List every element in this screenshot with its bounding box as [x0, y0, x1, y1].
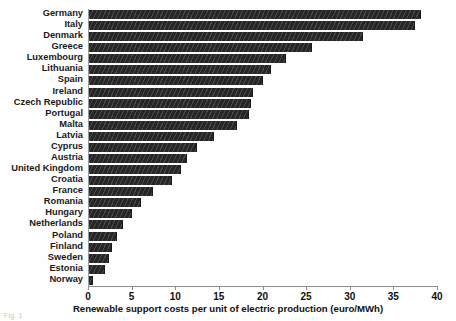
bar-row: Finland: [88, 242, 437, 253]
bar-row: Spain: [88, 75, 437, 86]
x-tick-mark: [175, 286, 176, 290]
bar-row: Sweden: [88, 253, 437, 264]
category-label: Ireland: [53, 86, 83, 97]
x-tick-label: 30: [344, 291, 355, 302]
bar-row: Netherlands: [88, 219, 437, 230]
bar-row: Latvia: [88, 131, 437, 142]
bar-row: Denmark: [88, 31, 437, 42]
bar: [88, 32, 363, 41]
x-tick-mark: [219, 286, 220, 290]
category-label: Romania: [44, 196, 83, 207]
x-tick-label: 25: [301, 291, 312, 302]
category-label: Croatia: [51, 174, 83, 185]
category-label: Portugal: [45, 108, 83, 119]
bar: [88, 132, 214, 141]
x-tick-label: 10: [170, 291, 181, 302]
x-axis-label: Renewable support costs per unit of elec…: [0, 303, 456, 314]
bar-chart-plot-area: GermanyItalyDenmarkGreeceLuxembourgLithu…: [88, 9, 437, 286]
x-tick-mark: [263, 286, 264, 290]
bar: [88, 54, 286, 63]
figure-caption: Fig. 1: [4, 312, 23, 319]
bar: [88, 220, 123, 229]
x-tick-mark: [88, 286, 89, 290]
bar: [88, 21, 415, 30]
bar-row: Austria: [88, 153, 437, 164]
x-tick-label: 40: [431, 291, 442, 302]
bar-row: Ireland: [88, 87, 437, 98]
bar: [88, 143, 197, 152]
bar: [88, 209, 132, 218]
bar-row: Lithuania: [88, 64, 437, 75]
category-label: Germany: [43, 8, 83, 19]
y-axis-line: [88, 9, 89, 287]
bar-row: Luxembourg: [88, 53, 437, 64]
category-label: Spain: [58, 74, 83, 85]
bar-row: Cyprus: [88, 142, 437, 153]
category-label: Norway: [49, 274, 83, 285]
bar: [88, 187, 153, 196]
bar: [88, 121, 237, 130]
category-label: United Kingdom: [11, 163, 83, 174]
bar-row: France: [88, 186, 437, 197]
category-label: Netherlands: [29, 218, 83, 229]
bar-row: Poland: [88, 231, 437, 242]
category-label: Poland: [52, 230, 83, 241]
category-label: Estonia: [49, 263, 83, 274]
bar-row: Hungary: [88, 208, 437, 219]
bar-row: Croatia: [88, 175, 437, 186]
category-label: Lithuania: [42, 63, 83, 74]
x-tick-mark: [393, 286, 394, 290]
category-label: Greece: [51, 41, 83, 52]
category-label: Malta: [59, 119, 83, 130]
bar: [88, 43, 312, 52]
bar-row: Italy: [88, 20, 437, 31]
bar: [88, 165, 181, 174]
x-tick-mark: [350, 286, 351, 290]
bar: [88, 198, 141, 207]
category-label: Sweden: [48, 252, 83, 263]
bar-row: Malta: [88, 120, 437, 131]
bar: [88, 176, 172, 185]
bar: [88, 10, 421, 19]
bar: [88, 76, 263, 85]
bar: [88, 265, 105, 274]
category-label: Finland: [50, 241, 83, 252]
category-label: Latvia: [56, 130, 83, 141]
bar: [88, 154, 187, 163]
category-label: Austria: [51, 152, 83, 163]
bar-row: Czech Republic: [88, 98, 437, 109]
category-label: France: [53, 185, 84, 196]
figure-container: GermanyItalyDenmarkGreeceLuxembourgLithu…: [0, 0, 456, 321]
bar-row: Portugal: [88, 109, 437, 120]
bar: [88, 65, 271, 74]
bar-row: United Kingdom: [88, 164, 437, 175]
category-label: Cyprus: [51, 141, 83, 152]
x-tick-label: 5: [129, 291, 135, 302]
bar: [88, 110, 249, 119]
bar: [88, 254, 109, 263]
x-tick-mark: [132, 286, 133, 290]
x-tick-mark: [306, 286, 307, 290]
x-tick-mark: [437, 286, 438, 290]
bar-row: Greece: [88, 42, 437, 53]
bar: [88, 88, 253, 97]
bar-row: Romania: [88, 197, 437, 208]
x-tick-label: 15: [213, 291, 224, 302]
x-tick-label: 20: [257, 291, 268, 302]
category-label: Italy: [64, 19, 83, 30]
bar-row: Estonia: [88, 264, 437, 275]
bar-row: Germany: [88, 9, 437, 20]
x-tick-label: 0: [85, 291, 91, 302]
bar: [88, 99, 251, 108]
category-label: Luxembourg: [27, 52, 83, 63]
category-label: Hungary: [45, 207, 83, 218]
bar-row: Norway: [88, 275, 437, 286]
category-label: Czech Republic: [14, 97, 83, 108]
category-label: Denmark: [43, 30, 83, 41]
bar: [88, 243, 112, 252]
bar: [88, 232, 117, 241]
x-tick-label: 35: [388, 291, 399, 302]
